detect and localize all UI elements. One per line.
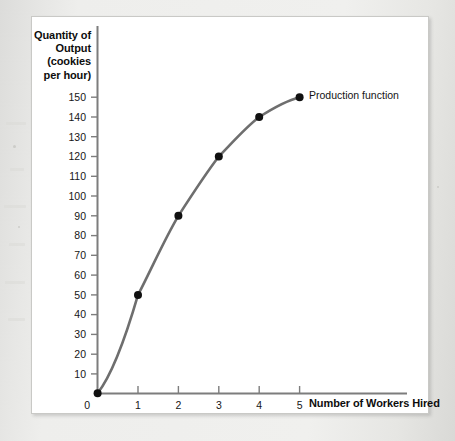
x-axis-tick-labels: 1 2 3 4 5 (135, 399, 303, 411)
production-function-data-points (94, 93, 304, 397)
production-function-curve (98, 97, 300, 393)
svg-text:30: 30 (74, 328, 86, 340)
data-point (94, 389, 102, 397)
data-point (215, 153, 223, 161)
svg-text:120: 120 (68, 150, 86, 162)
svg-text:150: 150 (68, 91, 86, 103)
svg-text:10: 10 (74, 368, 86, 380)
svg-text:70: 70 (74, 249, 86, 261)
data-point (174, 212, 182, 220)
y-axis-tick-labels: 150 140 130 120 110 100 90 80 70 60 50 4… (68, 91, 90, 411)
svg-text:5: 5 (297, 399, 303, 411)
y-axis-title: Quantity of Output (cookies per hour) (6, 29, 91, 82)
svg-text:100: 100 (68, 190, 86, 202)
svg-text:140: 140 (68, 111, 86, 123)
svg-text:80: 80 (74, 229, 86, 241)
data-point (255, 113, 263, 121)
x-axis-title: Number of Workers Hired (309, 397, 440, 410)
svg-text:20: 20 (74, 348, 86, 360)
svg-text:50: 50 (74, 289, 86, 301)
svg-text:0: 0 (84, 399, 90, 411)
svg-text:2: 2 (175, 399, 181, 411)
data-point (296, 93, 304, 101)
svg-text:110: 110 (69, 170, 86, 182)
svg-text:130: 130 (68, 131, 86, 143)
svg-text:3: 3 (216, 399, 222, 411)
x-axis-ticks (138, 386, 300, 393)
data-point (134, 291, 142, 299)
svg-text:40: 40 (74, 308, 86, 320)
scanned-page-background: 150 140 130 120 110 100 90 80 70 60 50 4… (0, 0, 455, 441)
chart-axes (98, 26, 408, 394)
production-function-label: Production function (309, 89, 399, 101)
svg-text:60: 60 (74, 269, 86, 281)
svg-text:4: 4 (256, 399, 262, 411)
svg-text:1: 1 (135, 399, 141, 411)
svg-text:90: 90 (74, 210, 86, 222)
